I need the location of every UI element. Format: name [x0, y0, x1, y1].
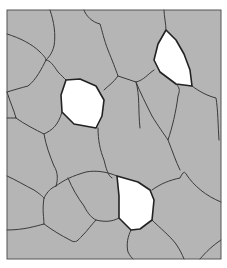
grain-structure-figure [0, 0, 227, 268]
microstructure-diagram [0, 0, 227, 268]
matrix-region [7, 10, 221, 259]
